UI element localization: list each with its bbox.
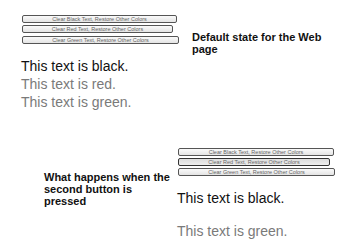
- clear-black-button[interactable]: Clear Black Text, Restore Other Colors: [178, 148, 334, 156]
- black-text: This text is black.: [21, 58, 128, 74]
- red-text: This text is red.: [21, 76, 116, 92]
- clear-red-button[interactable]: Clear Red Text, Restore Other Colors: [178, 158, 330, 166]
- clear-black-button[interactable]: Clear Black Text, Restore Other Colors: [22, 15, 177, 23]
- green-text: This text is green.: [177, 223, 288, 239]
- default-state-caption: Default state for the Web page: [192, 31, 332, 55]
- green-text: This text is green.: [21, 94, 132, 110]
- clear-green-button[interactable]: Clear Green Text, Restore Other Colors: [22, 36, 179, 44]
- clear-red-button[interactable]: Clear Red Text, Restore Other Colors: [22, 25, 173, 33]
- clear-green-button[interactable]: Clear Green Text, Restore Other Colors: [178, 168, 335, 176]
- black-text: This text is black.: [177, 190, 284, 206]
- pressed-state-caption: What happens when the second button is p…: [44, 171, 174, 207]
